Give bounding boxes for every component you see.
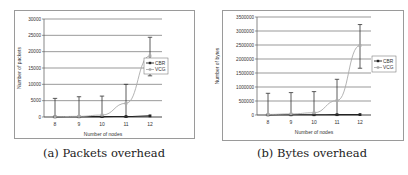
x-tick-label: 10 bbox=[311, 119, 317, 125]
y-tick-label: 25000 bbox=[28, 33, 41, 38]
x-axis-label: Number of nodes bbox=[84, 131, 123, 137]
x-tick-label: 9 bbox=[290, 119, 293, 125]
cbr-marker bbox=[149, 114, 152, 117]
legend-label-cbr: CBR bbox=[383, 59, 394, 64]
legend-label-vcg: VCG bbox=[155, 67, 166, 72]
vcg-marker bbox=[125, 102, 128, 105]
x-axis-label: Number of nodes bbox=[295, 129, 334, 135]
vcg-marker bbox=[359, 44, 362, 47]
legend: CBRVCG bbox=[144, 58, 168, 74]
vcg-marker bbox=[313, 111, 316, 114]
vcg-marker bbox=[336, 99, 339, 102]
y-axis-label: Number of bytes bbox=[214, 47, 220, 84]
x-tick-label: 10 bbox=[99, 121, 105, 127]
legend-marker bbox=[149, 62, 151, 64]
packets-overhead-chart: 05000100001500020000250003000089101112Nu… bbox=[0, 0, 204, 140]
legend-marker bbox=[377, 60, 379, 62]
caption-packets-overhead: (a) Packets overhead bbox=[14, 146, 194, 160]
y-tick-label: 2500000 bbox=[236, 43, 254, 48]
caption-bytes-overhead: (b) Bytes overhead bbox=[222, 146, 402, 160]
y-tick-label: 500000 bbox=[239, 99, 255, 104]
vcg-marker bbox=[78, 115, 81, 118]
bytes-overhead-chart: 0500000100000015000002000000250000030000… bbox=[204, 0, 408, 142]
y-axis-label: Number of packets bbox=[16, 47, 22, 89]
y-tick-label: 20000 bbox=[28, 49, 41, 54]
y-tick-label: 5000 bbox=[31, 98, 42, 103]
x-tick-label: 9 bbox=[78, 121, 81, 127]
y-tick-label: 3500000 bbox=[236, 15, 254, 20]
legend: CBRVCG bbox=[372, 56, 396, 72]
x-tick-label: 12 bbox=[357, 119, 363, 125]
x-tick-label: 8 bbox=[54, 121, 57, 127]
cbr-marker bbox=[359, 113, 362, 116]
legend-marker bbox=[149, 68, 151, 70]
y-tick-label: 15000 bbox=[28, 66, 41, 71]
y-tick-label: 1000000 bbox=[236, 85, 254, 90]
y-tick-label: 2000000 bbox=[236, 57, 254, 62]
y-tick-label: 1500000 bbox=[236, 71, 254, 76]
y-tick-label: 0 bbox=[251, 113, 254, 118]
legend-label-vcg: VCG bbox=[383, 65, 394, 70]
y-tick-label: 30000 bbox=[28, 17, 41, 22]
legend-label-cbr: CBR bbox=[155, 61, 166, 66]
x-tick-label: 11 bbox=[334, 119, 339, 125]
x-tick-label: 11 bbox=[123, 121, 128, 127]
x-tick-label: 8 bbox=[267, 119, 270, 125]
vcg-marker bbox=[54, 115, 57, 118]
y-tick-label: 0 bbox=[38, 115, 41, 120]
vcg-marker bbox=[149, 55, 152, 58]
legend-marker bbox=[377, 66, 379, 68]
vcg-marker bbox=[101, 114, 104, 117]
x-tick-label: 12 bbox=[147, 121, 153, 127]
y-tick-label: 10000 bbox=[28, 82, 41, 87]
vcg-marker bbox=[267, 113, 270, 116]
vcg-marker bbox=[290, 112, 293, 115]
y-tick-label: 3000000 bbox=[236, 29, 254, 34]
vcg-line bbox=[55, 56, 150, 117]
